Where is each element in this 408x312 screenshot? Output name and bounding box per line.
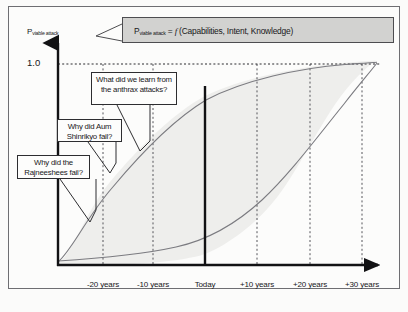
diagram-page: Pviable attack 1.0 Pviable attack = f (C…: [0, 0, 408, 312]
x-tick-label-minus-20: -20 years: [77, 281, 129, 290]
callout-anthrax: What did we learn from the anthrax attac…: [91, 72, 177, 105]
y-axis-label-sub: viable attack: [32, 30, 58, 36]
x-tick-label-minus-10: -10 years: [127, 281, 179, 290]
formula-args: (Capabilities, Intent, Knowledge): [179, 26, 293, 36]
x-tick-label-plus-20: +20 years: [284, 281, 336, 290]
callout-aum-shinrikyo: Why did Aum Shinrikyo fail?: [57, 119, 122, 142]
x-tick-label-today: Today: [179, 281, 231, 290]
formula-text: Pviable attack = f (Capabilities, Intent…: [134, 26, 293, 37]
x-tick-label-plus-30: +30 years: [336, 281, 388, 290]
y-tick-label-1-0: 1.0: [27, 58, 40, 69]
formula-leader: [96, 24, 122, 41]
callout-tail-aum: [88, 142, 116, 173]
formula-function-f: f: [175, 26, 177, 36]
y-axis-label: Pviable attack: [27, 28, 59, 37]
formula-lhs-sub: viable attack: [139, 30, 165, 36]
formula-equals: =: [168, 26, 173, 36]
callout-rajneeshees: Why did the Rajneeshees fail?: [17, 155, 90, 179]
x-tick-label-plus-10: +10 years: [231, 281, 283, 290]
